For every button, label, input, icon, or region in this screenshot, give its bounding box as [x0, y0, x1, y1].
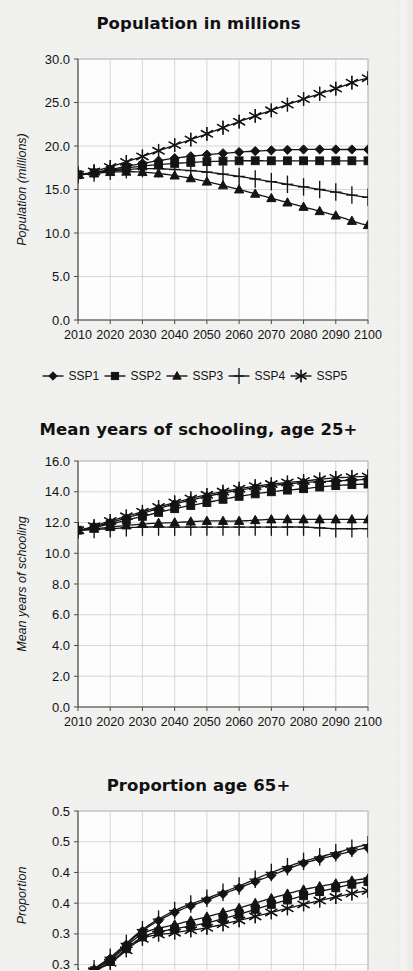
- y-axis-title: Proportion: [15, 867, 29, 925]
- y-tick-label: 14.0: [45, 484, 70, 499]
- x-tick-label: 2080: [290, 715, 318, 729]
- chart-title-proportion65: Proportion age 65+: [0, 760, 397, 795]
- marker-square: [219, 157, 227, 165]
- marker-square: [251, 157, 259, 165]
- marker-square: [348, 157, 356, 165]
- marker-square: [364, 157, 372, 165]
- x-tick-label: 2100: [354, 715, 382, 729]
- x-tick-label: 2070: [257, 715, 285, 729]
- y-tick-label: 10.0: [45, 226, 70, 241]
- chart-svg-schooling: 0.02.04.06.08.010.012.014.016.0201020202…: [0, 439, 397, 759]
- y-tick-label: 0.4: [52, 896, 70, 911]
- x-tick-label: 2020: [96, 328, 124, 342]
- chart-area-population: 0.05.010.015.020.025.030.020102020203020…: [0, 33, 397, 388]
- x-tick-label: 2050: [193, 715, 221, 729]
- legend-label-ssp4: SSP4: [255, 369, 286, 383]
- y-tick-label: 25.0: [45, 95, 70, 110]
- marker-plus: [234, 368, 245, 384]
- legend-label-ssp1: SSP1: [69, 369, 100, 383]
- y-tick-label: 15.0: [45, 182, 70, 197]
- x-tick-label: 2090: [322, 715, 350, 729]
- marker-square: [300, 157, 308, 165]
- y-tick-label: 8.0: [52, 577, 70, 592]
- marker-square: [267, 157, 275, 165]
- y-tick-label: 0.4: [52, 865, 70, 880]
- y-tick-label: 30.0: [45, 52, 70, 67]
- y-tick-label: 20.0: [45, 139, 70, 154]
- x-tick-label: 2020: [96, 715, 124, 729]
- chart-title-population: Population in millions: [0, 0, 397, 33]
- marker-square: [316, 157, 324, 165]
- x-tick-label: 2060: [225, 715, 253, 729]
- chart-svg-population: 0.05.010.015.020.025.030.020102020203020…: [0, 33, 397, 388]
- y-tick-label: 0.5: [52, 804, 70, 819]
- y-tick-label: 4.0: [52, 638, 70, 653]
- chart-title-schooling: Mean years of schooling, age 25+: [0, 400, 397, 439]
- chart-legend: SSP1SSP2SSP3SSP4SSP5: [43, 368, 348, 384]
- y-tick-label: 0.3: [52, 926, 70, 941]
- legend-label-ssp5: SSP5: [317, 369, 348, 383]
- x-tick-label: 2010: [64, 715, 92, 729]
- x-tick-label: 2060: [225, 328, 253, 342]
- x-tick-label: 2040: [161, 715, 189, 729]
- y-axis-title: Population (millions): [15, 133, 29, 246]
- scanned-figure-page: Population in millions 0.05.010.015.020.…: [0, 0, 413, 971]
- chart-area-proportion65: 0.30.30.40.40.50.5Proportion: [0, 795, 397, 970]
- x-tick-label: 2030: [129, 328, 157, 342]
- chart-panel-proportion65: Proportion age 65+ 0.30.30.40.40.50.5Pro…: [0, 760, 397, 971]
- marker-square: [111, 372, 118, 379]
- chart-area-schooling: 0.02.04.06.08.010.012.014.016.0201020202…: [0, 439, 397, 759]
- legend-label-ssp2: SSP2: [131, 369, 162, 383]
- y-tick-label: 5.0: [52, 269, 70, 284]
- marker-diamond: [49, 372, 57, 380]
- y-axis-title: Mean years of schooling: [15, 516, 29, 652]
- chart-panel-population: Population in millions 0.05.010.015.020.…: [0, 0, 397, 400]
- y-tick-label: 0.0: [52, 313, 70, 328]
- marker-square: [235, 157, 243, 165]
- x-tick-label: 2080: [290, 328, 318, 342]
- chart-panel-schooling: Mean years of schooling, age 25+ 0.02.04…: [0, 400, 397, 760]
- legend-label-ssp3: SSP3: [193, 369, 224, 383]
- x-tick-label: 2090: [322, 328, 350, 342]
- y-tick-label: 6.0: [52, 607, 70, 622]
- page-right-margin: [397, 0, 413, 971]
- x-tick-label: 2040: [161, 328, 189, 342]
- y-tick-label: 12.0: [45, 515, 70, 530]
- y-tick-label: 0.0: [52, 700, 70, 715]
- x-tick-label: 2070: [257, 328, 285, 342]
- y-tick-label: 2.0: [52, 669, 70, 684]
- chart-svg-proportion65: 0.30.30.40.40.50.5Proportion: [0, 795, 397, 970]
- y-tick-label: 10.0: [45, 546, 70, 561]
- x-tick-label: 2030: [129, 715, 157, 729]
- marker-square: [284, 157, 292, 165]
- marker-square: [332, 157, 340, 165]
- x-tick-label: 2010: [64, 328, 92, 342]
- x-tick-label: 2100: [354, 328, 382, 342]
- y-tick-label: 0.5: [52, 834, 70, 849]
- y-tick-label: 16.0: [45, 454, 70, 469]
- y-tick-label: 0.3: [52, 957, 70, 970]
- x-tick-label: 2050: [193, 328, 221, 342]
